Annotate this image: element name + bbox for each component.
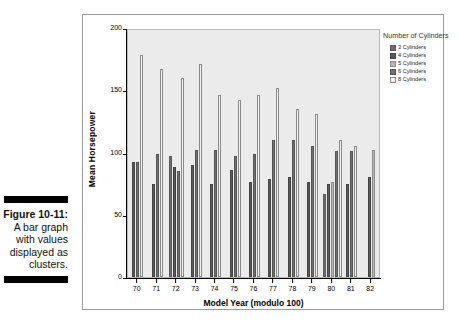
bar-72-c8 xyxy=(181,78,184,277)
legend-swatch-c5 xyxy=(390,61,396,67)
x-tick-label: 77 xyxy=(269,285,277,292)
bar-71-c4 xyxy=(152,184,155,277)
bar-81-c4 xyxy=(346,184,349,277)
caption-rule-bottom xyxy=(4,276,68,283)
x-tick-label: 75 xyxy=(230,285,238,292)
x-tick-label: 71 xyxy=(152,285,160,292)
x-axis-title: Model Year (modulo 100) xyxy=(127,298,380,308)
bar-73-c6 xyxy=(195,150,198,277)
x-tick-81: 81 xyxy=(347,279,355,292)
x-tick-71: 71 xyxy=(152,279,160,292)
bar-80-c4 xyxy=(327,184,330,277)
legend-swatch-c3 xyxy=(390,45,396,51)
bar-71-c8 xyxy=(160,69,163,277)
bar-78-c6 xyxy=(292,140,295,277)
caption-line-1: with values xyxy=(0,233,68,246)
x-tick-label: 80 xyxy=(327,285,335,292)
bar-81-c8 xyxy=(354,146,357,277)
bar-72-c4 xyxy=(173,167,176,277)
bar-75-c8 xyxy=(238,100,241,277)
legend-label: 3 Cylinders xyxy=(398,44,426,51)
y-tick-label: 100 xyxy=(102,149,122,156)
caption-line-3: clusters. xyxy=(0,258,68,271)
bar-cluster-82 xyxy=(362,30,381,277)
bar-78-c4 xyxy=(288,177,291,277)
x-tick-mark xyxy=(156,279,157,283)
bar-76-c4 xyxy=(249,182,252,277)
x-tick-label: 81 xyxy=(347,285,355,292)
legend-swatch-c6 xyxy=(390,69,396,75)
bar-70-c6 xyxy=(136,162,139,277)
legend-item-c4: 4 Cylinders xyxy=(390,52,441,59)
bar-cluster-74 xyxy=(206,30,225,277)
legend-label: 6 Cylinders xyxy=(398,68,426,75)
bar-cluster-78 xyxy=(284,30,303,277)
bar-78-c8 xyxy=(296,109,299,277)
x-tick-mark xyxy=(350,279,351,283)
y-tick-label: 150 xyxy=(102,86,122,93)
bar-74-c4 xyxy=(210,184,213,277)
y-tick-label: 0 xyxy=(102,273,122,280)
x-tick-76: 76 xyxy=(250,279,258,292)
y-tick-label: 50 xyxy=(102,211,122,218)
figure-caption-block: Figure 10-11: A bar graph with values di… xyxy=(0,196,72,283)
legend-item-c3: 3 Cylinders xyxy=(390,44,441,51)
x-tick-label: 76 xyxy=(250,285,258,292)
caption-line-0: A bar graph xyxy=(0,221,68,234)
legend-item-c5: 5 Cylinders xyxy=(390,60,441,67)
bar-80-c5 xyxy=(331,182,334,277)
bar-80-c3 xyxy=(323,194,326,277)
bar-82-c4 xyxy=(368,177,371,277)
x-tick-label: 78 xyxy=(289,285,297,292)
x-tick-mark xyxy=(272,279,273,283)
y-axis-line xyxy=(126,29,127,279)
bar-81-c6 xyxy=(350,151,353,277)
bar-72-c3 xyxy=(169,156,172,277)
x-tick-70: 70 xyxy=(133,279,141,292)
x-tick-label: 79 xyxy=(308,285,316,292)
plot-panel xyxy=(127,29,380,278)
x-tick-mark xyxy=(370,279,371,283)
bar-75-c6 xyxy=(234,156,237,277)
bar-75-c4 xyxy=(230,170,233,277)
bar-73-c8 xyxy=(199,64,202,277)
x-tick-mark xyxy=(136,279,137,283)
plot-inner xyxy=(128,30,379,277)
x-tick-mark xyxy=(195,279,196,283)
x-tick-mark xyxy=(214,279,215,283)
bar-cluster-81 xyxy=(342,30,361,277)
x-tick-label: 73 xyxy=(191,285,199,292)
bar-cluster-77 xyxy=(264,30,283,277)
bar-76-c8 xyxy=(257,95,260,277)
legend-swatch-c8 xyxy=(390,77,396,83)
bar-cluster-76 xyxy=(245,30,264,277)
bar-82-c5 xyxy=(372,150,375,277)
bar-cluster-79 xyxy=(303,30,322,277)
bar-80-c6 xyxy=(335,151,338,277)
x-tick-75: 75 xyxy=(230,279,238,292)
bar-70-c4 xyxy=(132,162,135,277)
bar-cluster-73 xyxy=(186,30,205,277)
chart-legend: Number of Cylinders 3 Cylinders4 Cylinde… xyxy=(383,31,441,84)
caption-line-2: displayed as xyxy=(0,246,68,259)
bar-cluster-75 xyxy=(225,30,244,277)
x-tick-mark xyxy=(331,279,332,283)
legend-label: 8 Cylinders xyxy=(398,76,426,83)
bar-72-c6 xyxy=(177,171,180,277)
y-axis-title: Mean Horsepower xyxy=(87,111,101,187)
legend-label: 5 Cylinders xyxy=(398,60,426,67)
x-tick-72: 72 xyxy=(172,279,180,292)
bar-74-c8 xyxy=(218,95,221,277)
bar-cluster-80 xyxy=(323,30,342,277)
bar-74-c6 xyxy=(214,150,217,277)
x-tick-79: 79 xyxy=(308,279,316,292)
x-tick-mark xyxy=(175,279,176,283)
x-tick-mark xyxy=(311,279,312,283)
x-tick-73: 73 xyxy=(191,279,199,292)
caption-text: Figure 10-11: A bar graph with values di… xyxy=(0,203,72,276)
x-tick-label: 72 xyxy=(172,285,180,292)
bar-77-c6 xyxy=(272,140,275,277)
x-tick-mark xyxy=(234,279,235,283)
caption-figure-number: Figure 10-11: xyxy=(0,208,68,221)
y-tick-label: 200 xyxy=(102,24,122,31)
